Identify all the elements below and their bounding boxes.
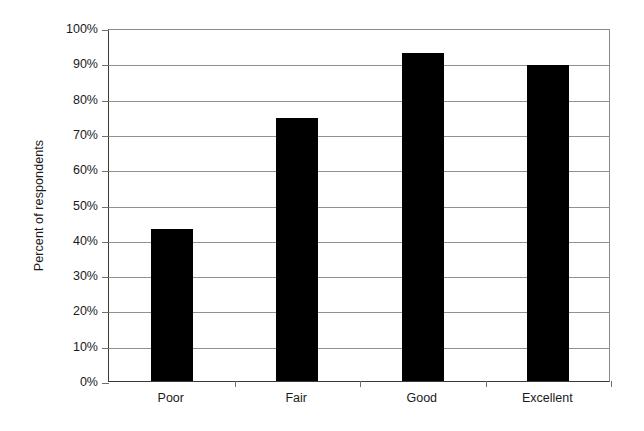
- y-axis-tick: [102, 136, 109, 137]
- bar-chart: Percent of respondents 0%10%20%30%40%50%…: [0, 0, 644, 431]
- x-axis-tick: [611, 381, 612, 387]
- x-axis-tick-label: Poor: [158, 390, 184, 406]
- bar: [276, 118, 318, 381]
- x-axis-tick-label: Good: [406, 390, 437, 406]
- y-axis-tick: [102, 101, 109, 102]
- bar: [151, 229, 193, 381]
- x-axis-tick: [486, 381, 487, 387]
- y-axis-tick: [102, 30, 109, 31]
- y-axis-tick: [102, 171, 109, 172]
- y-axis-tick-labels: 0%10%20%30%40%50%60%70%80%90%100%: [50, 0, 98, 431]
- y-axis-tick-label: 0%: [52, 376, 98, 388]
- y-axis-tick: [102, 242, 109, 243]
- y-axis-tick-label: 70%: [52, 129, 98, 141]
- bar: [402, 53, 444, 381]
- y-axis-tick: [102, 65, 109, 66]
- x-axis-tick-label: Excellent: [522, 390, 573, 406]
- plot-area: [108, 29, 610, 382]
- x-axis-tick-labels: PoorFairGoodExcellent: [108, 390, 610, 410]
- y-axis-tick-label: 100%: [52, 23, 98, 35]
- x-axis-tick: [235, 381, 236, 387]
- y-axis-tick: [102, 348, 109, 349]
- y-axis-tick-label: 20%: [52, 305, 98, 317]
- x-axis-tick: [360, 381, 361, 387]
- y-axis-tick-label: 90%: [52, 58, 98, 70]
- y-axis-tick-label: 40%: [52, 235, 98, 247]
- y-axis-tick-label: 60%: [52, 164, 98, 176]
- y-axis-title: Percent of respondents: [31, 29, 47, 382]
- y-axis-tick: [102, 207, 109, 208]
- y-axis-tick: [102, 383, 109, 384]
- y-axis-tick: [102, 277, 109, 278]
- x-axis-tick-label: Fair: [285, 390, 307, 406]
- y-axis-tick-label: 50%: [52, 200, 98, 212]
- y-axis-tick-label: 80%: [52, 94, 98, 106]
- y-axis-tick: [102, 312, 109, 313]
- y-axis-tick-label: 30%: [52, 270, 98, 282]
- y-axis-tick-label: 10%: [52, 341, 98, 353]
- bar: [527, 65, 569, 381]
